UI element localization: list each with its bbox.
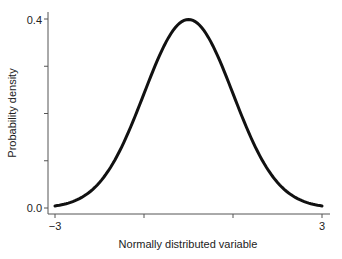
x-tick-label-min: −3 [49, 220, 62, 232]
y-tick-label-max: 0.4 [27, 14, 42, 26]
y-axis-label: Probability density [6, 68, 18, 158]
x-axis: −3 3 Normally distributed variable [48, 214, 330, 250]
density-chart: 0.4 0.0 Probability density −3 3 Normall… [0, 0, 342, 259]
x-tick-label-max: 3 [319, 220, 325, 232]
y-tick-label-min: 0.0 [27, 202, 42, 214]
density-curve [55, 19, 322, 205]
x-axis-label: Normally distributed variable [119, 238, 258, 250]
y-axis: 0.4 0.0 Probability density [6, 12, 48, 214]
